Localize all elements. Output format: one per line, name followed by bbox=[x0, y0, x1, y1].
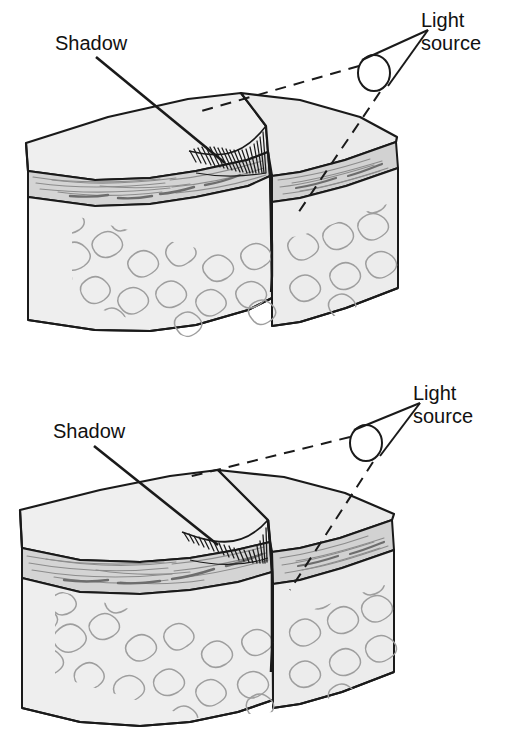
left-side-face-lower bbox=[20, 510, 22, 708]
block-diagram-figure: Light source Shadow bbox=[0, 0, 514, 746]
light-ray-lower-far bbox=[188, 437, 350, 477]
shadow-label-lower: Shadow bbox=[53, 420, 126, 442]
panel-upper: Light source Shadow bbox=[26, 9, 481, 337]
shadow-label-upper: Shadow bbox=[55, 32, 128, 54]
light-source-label-lower-line2: source bbox=[413, 405, 473, 427]
light-source-label-upper-line2: source bbox=[421, 32, 481, 54]
panel-lower: Light source Shadow bbox=[20, 382, 473, 731]
left-side-face-upper bbox=[26, 143, 28, 320]
light-source-label-lower-line1: Light bbox=[413, 382, 457, 404]
light-source-label-upper-line1: Light bbox=[421, 9, 465, 31]
